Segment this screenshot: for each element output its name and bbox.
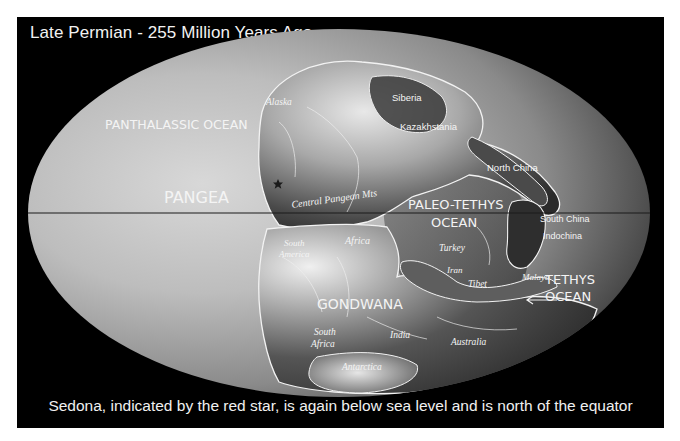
- label-kazakhstania: Kazakhstania: [400, 121, 458, 132]
- label-alaska: Alaska: [265, 97, 292, 107]
- label-turkey: Turkey: [439, 243, 466, 253]
- label-india: India: [389, 330, 410, 340]
- label-australia: Australia: [450, 337, 487, 347]
- label-tibet: Tibet: [468, 279, 487, 289]
- label-paleo-tethys-line1: PALEO-TETHYS: [408, 197, 504, 212]
- label-siberia: Siberia: [392, 92, 422, 103]
- paleogeographic-map: PANTHALASSIC OCEAN PALEO-TETHYS OCEAN TE…: [17, 17, 664, 428]
- label-tethys-line1: TETHYS: [544, 272, 595, 287]
- map-caption: Sedona, indicated by the red star, is ag…: [17, 397, 664, 415]
- label-indochina: Indochina: [543, 231, 582, 241]
- label-antarctica: Antarctica: [341, 362, 382, 372]
- map-frame: Late Permian - 255 Million Years Ago: [17, 17, 664, 428]
- label-iran: Iran: [446, 265, 463, 275]
- label-south-africa-line1: South: [314, 327, 336, 337]
- label-south-africa-line2: Africa: [310, 339, 335, 349]
- label-pangea: PANGEA: [164, 188, 229, 207]
- label-panthalassic-ocean: PANTHALASSIC OCEAN: [105, 117, 248, 132]
- label-gondwana: GONDWANA: [317, 296, 403, 312]
- label-north-china: North China: [487, 162, 538, 173]
- label-south-america-line1: South: [284, 238, 305, 248]
- label-malaya: Malaya: [521, 272, 550, 282]
- label-south-china: South China: [540, 214, 590, 224]
- label-south-america-line2: America: [278, 249, 310, 259]
- label-paleo-tethys-line2: OCEAN: [431, 215, 477, 230]
- label-africa: Africa: [344, 235, 370, 246]
- label-tethys-line2: OCEAN: [545, 289, 591, 304]
